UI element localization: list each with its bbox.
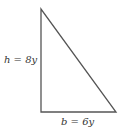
right-triangle (41, 9, 116, 112)
height-label: h = 8y (4, 54, 37, 65)
base-label: b = 6y (61, 116, 94, 127)
